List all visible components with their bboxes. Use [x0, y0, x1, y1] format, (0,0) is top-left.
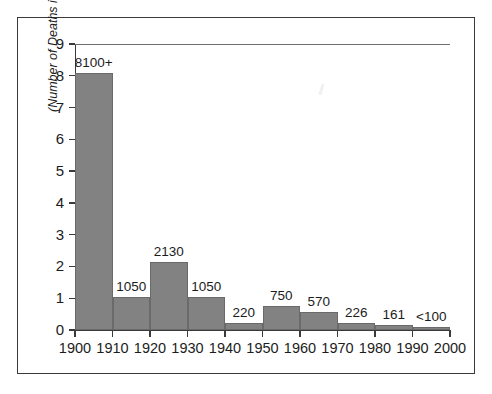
x-tick-mark [74, 331, 75, 337]
bar [413, 327, 451, 330]
bar [225, 323, 263, 330]
x-tick-mark [149, 331, 150, 337]
x-tick-mark [224, 331, 225, 337]
y-tick-label: 1 [46, 290, 64, 305]
bar-value-label: 2130 [134, 245, 204, 259]
y-tick-label: 6 [46, 131, 64, 146]
bar-value-label: 1050 [96, 280, 166, 294]
x-tick-mark [337, 331, 338, 337]
y-tick-label: 7 [46, 100, 64, 115]
y-tick-label: 0 [46, 322, 64, 337]
x-tick-mark [412, 331, 413, 337]
y-tick-label: 9 [46, 36, 64, 51]
bar-value-label: 8100+ [59, 56, 129, 70]
y-tick-label: 8 [46, 68, 64, 83]
bar [150, 262, 188, 330]
y-tick-label: 4 [46, 195, 64, 210]
x-tick-mark [187, 331, 188, 337]
bar-value-label: 220 [209, 306, 279, 320]
bar [113, 297, 151, 330]
x-tick-mark [299, 331, 300, 337]
x-tick-mark [262, 331, 263, 337]
bar [375, 325, 413, 330]
bar-value-label: <100 [396, 310, 466, 324]
y-tick-label: 3 [46, 227, 64, 242]
x-tick-mark [112, 331, 113, 337]
x-tick-mark [449, 331, 450, 337]
x-tick-mark [374, 331, 375, 337]
chart-figure: (Number of Deaths in Thousands) 01234567… [0, 0, 492, 394]
plot-top-rule [75, 44, 450, 45]
x-tick-label: 2000 [420, 341, 480, 356]
bar-value-label: 1050 [171, 280, 241, 294]
y-tick-label: 5 [46, 163, 64, 178]
y-tick-label: 2 [46, 258, 64, 273]
bar [338, 323, 376, 330]
